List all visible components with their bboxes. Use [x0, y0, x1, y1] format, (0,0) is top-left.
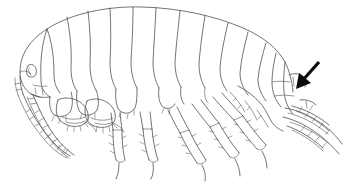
head [20, 29, 50, 97]
gnathopod-2 [85, 99, 124, 133]
amphipod-drawing [0, 0, 349, 188]
figure-container [0, 0, 349, 188]
body-outline [20, 7, 293, 131]
pointer-arrow-icon [296, 62, 319, 89]
pereon-segments [47, 7, 205, 93]
uropods [283, 100, 342, 154]
eye-icon [27, 64, 37, 77]
pereopod-4 [139, 112, 159, 179]
coxal-plates [50, 87, 208, 123]
pereopod-6 [192, 100, 240, 176]
pereopod-5 [168, 107, 206, 181]
pleon-segments [220, 23, 266, 101]
